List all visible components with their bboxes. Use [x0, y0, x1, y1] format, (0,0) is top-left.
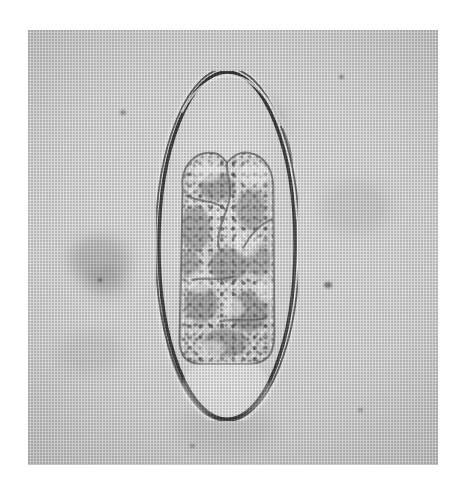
photo-plate: [28, 30, 438, 465]
photomicrograph-figure: [0, 0, 462, 480]
halftone-screen-light: [28, 30, 438, 465]
